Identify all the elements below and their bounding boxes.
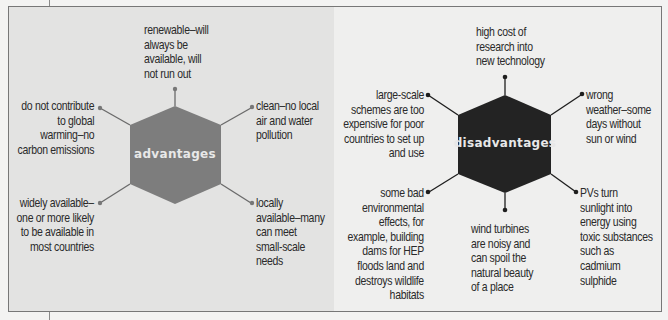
disadvantages-dot-top (503, 75, 508, 80)
advantages-connector-lower-left (100, 184, 130, 203)
disadvantages-connector-lower-left (429, 174, 458, 192)
advantages-dot-upper-right (250, 105, 254, 109)
disadvantages-dot-lower-left (426, 190, 431, 195)
advantages-item-renewable: renewable–will always be available, will… (144, 23, 209, 81)
advantages-item-locally-available: locally available–many can meet small-sc… (256, 196, 325, 269)
advantages-title: advantages (134, 147, 216, 161)
disadvantages-connector-upper-right (551, 95, 581, 115)
disadvantages-connector-upper-left (428, 95, 458, 115)
disadvantages-dot-lower-right (574, 190, 579, 195)
diagram-graphics (0, 0, 668, 320)
disadvantages-item-pv-toxic: PVs turn sunlight into energy using toxi… (580, 186, 653, 288)
advantages-dot-top (173, 87, 177, 91)
disadvantages-title: disadvantages (454, 136, 557, 150)
advantages-connector-upper-right (221, 108, 251, 125)
advantages-item-no-carbon: do not contribute to global warming–no c… (17, 99, 94, 157)
advantages-dot-lower-right (250, 201, 254, 205)
disadvantages-item-research-cost: high cost of research into new technolog… (476, 25, 545, 69)
disadvantages-dot-upper-left (426, 93, 431, 98)
advantages-item-widely-available: widely available– one or more likely to … (17, 196, 94, 254)
disadvantages-dot-bottom (503, 208, 508, 213)
advantages-item-clean: clean–no local air and water pollution (256, 99, 319, 143)
disadvantages-dot-upper-right (580, 92, 585, 97)
advantages-dot-lower-left (98, 201, 102, 205)
disadvantages-item-environmental-effects: some bad environmental effects, for exam… (348, 186, 424, 303)
disadvantages-item-weather: wrong weather–some days without sun or w… (586, 88, 651, 146)
disadvantages-item-large-scale: large-scale schemes are too expensive fo… (343, 88, 424, 161)
advantages-connector-upper-left (100, 108, 130, 125)
disadvantages-connector-lower-right (551, 174, 576, 192)
advantages-connector-lower-right (221, 184, 251, 203)
advantages-dot-upper-left (98, 106, 102, 110)
disadvantages-item-wind-turbines: wind turbines are noisy and can spoil th… (471, 222, 533, 295)
